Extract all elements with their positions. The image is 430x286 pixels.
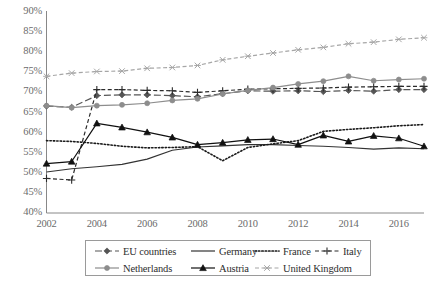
legend-label: Germany [219,246,257,257]
legend-item-france[interactable]: France [254,242,311,260]
legend-label: EU countries [123,246,176,257]
data-point-marker [320,45,327,51]
data-point-marker [120,102,125,107]
data-point-marker [395,37,402,43]
data-point-marker [170,98,175,103]
data-point-marker [323,247,330,254]
data-point-marker [244,53,251,59]
x-tick-label: 2010 [226,218,270,229]
y-tick-label: 40% [4,206,42,217]
data-point-marker [169,65,176,71]
data-point-marker [271,85,276,90]
legend-row: EU countriesGermanyFranceItaly [86,242,370,260]
legend-label: Italy [343,246,362,257]
data-point-marker [68,176,75,183]
series-line [47,76,425,107]
legend-swatch-icon [314,244,340,258]
data-point-marker [396,77,401,82]
series-italy [43,83,428,184]
legend-item-united-kingdom[interactable]: United Kingdom [254,259,352,277]
data-point-marker [43,175,50,182]
x-tick-label: 2008 [176,218,220,229]
legend-item-eu-countries[interactable]: EU countries [94,242,176,260]
legend-swatch-icon [94,261,120,275]
legend-label: United Kingdom [283,263,352,274]
series-france [47,125,425,161]
data-point-marker [194,63,201,69]
data-point-marker [245,88,250,93]
series-netherlands [44,74,427,110]
legend-row: NetherlandsAustriaUnited Kingdom [86,259,370,277]
line-chart: 40%45%50%55%60%65%70%75%80%85%90% 200220… [0,0,430,286]
legend-item-italy[interactable]: Italy [314,242,362,260]
legend-item-germany[interactable]: Germany [190,242,257,260]
data-point-marker [296,81,301,86]
data-point-marker [195,96,200,101]
y-tick-label: 45% [4,186,42,197]
data-point-marker [219,57,226,63]
series-united-kingdom [43,35,427,79]
series-eu-countries [43,86,427,110]
data-point-marker [264,265,271,271]
legend-item-netherlands[interactable]: Netherlands [94,259,172,277]
data-point-marker [144,65,151,71]
y-tick-label: 85% [4,25,42,36]
y-tick-label: 75% [4,65,42,76]
x-tick-label: 2006 [125,218,169,229]
legend-swatch-icon [94,244,120,258]
data-point-marker [68,70,75,76]
data-point-marker [321,79,326,84]
legend-item-austria[interactable]: Austria [190,259,249,277]
data-point-marker [370,39,377,45]
series-line [47,125,425,161]
y-tick-label: 50% [4,166,42,177]
data-point-marker [94,120,101,126]
y-tick-label: 90% [4,5,42,16]
data-point-marker [346,74,351,79]
legend-swatch-icon [254,244,280,258]
data-point-marker [118,86,125,93]
legend-label: Austria [219,263,249,274]
legend-swatch-icon [190,261,216,275]
data-point-marker [93,69,100,75]
data-point-marker [422,76,427,81]
x-tick-label: 2004 [75,218,119,229]
x-tick-label: 2002 [25,218,69,229]
chart-legend: EU countriesGermanyFranceItalyNetherland… [85,240,371,276]
data-point-marker [295,47,302,53]
data-point-marker [194,89,201,96]
data-point-marker [69,105,74,110]
data-point-marker [44,103,49,108]
data-point-marker [145,101,150,106]
x-tick-label: 2016 [377,218,421,229]
data-point-marker [93,86,100,93]
data-point-marker [345,41,352,47]
data-point-marker [105,266,110,271]
data-point-marker [144,87,151,94]
data-point-marker [320,84,327,91]
data-point-marker [104,248,110,254]
data-point-marker [119,68,126,74]
chart-axes [47,11,425,213]
x-tick-label: 2012 [276,218,320,229]
y-tick-label: 65% [4,106,42,117]
y-tick-label: 70% [4,85,42,96]
y-tick-label: 80% [4,45,42,56]
series-line [47,38,425,77]
data-point-marker [370,83,377,90]
legend-label: Netherlands [123,263,172,274]
legend-swatch-icon [190,244,216,258]
data-point-marker [371,78,376,83]
series-germany [47,145,425,172]
legend-label: France [283,246,311,257]
series-line [47,145,425,172]
data-point-marker [421,35,428,41]
series-line [47,123,425,163]
x-tick-label: 2014 [327,218,371,229]
legend-swatch-icon [254,261,280,275]
data-point-marker [270,50,277,56]
data-point-marker [169,87,176,94]
data-point-marker [94,103,99,108]
y-tick-label: 60% [4,126,42,137]
y-tick-label: 55% [4,146,42,157]
